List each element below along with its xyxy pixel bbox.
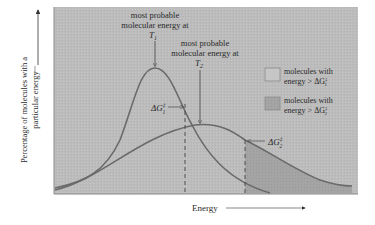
y-axis-label-line1: Percentage of molecules with a bbox=[19, 57, 29, 163]
x-axis-label: Energy bbox=[192, 203, 218, 213]
legend-swatch-dg1 bbox=[265, 68, 280, 81]
energy-distribution-diagram: most probable molecular energy at T1 mos… bbox=[0, 0, 375, 225]
t2-annotation-line2: molecular energy at bbox=[171, 48, 239, 58]
t2-annotation-line1: most probable bbox=[181, 38, 230, 48]
legend-dg2-line1: molecules with bbox=[284, 96, 333, 105]
legend-dg1-line2: energy > ΔG‡1 bbox=[284, 77, 328, 87]
t1-annotation-line2: molecular energy at bbox=[121, 20, 189, 30]
t1-annotation-line1: most probable bbox=[131, 10, 180, 20]
legend-swatch-dg2 bbox=[265, 97, 280, 110]
legend-dg2-line2: energy > ΔG‡2 bbox=[284, 106, 328, 116]
legend-dg1-line1: molecules with bbox=[284, 67, 333, 76]
y-axis-label-line2: particular energy bbox=[30, 70, 40, 128]
